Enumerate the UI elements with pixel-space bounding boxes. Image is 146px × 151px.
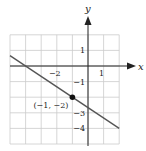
y-tick-label: −4 bbox=[73, 124, 85, 133]
point-marker bbox=[70, 94, 76, 100]
data-series: (−1, −2) bbox=[10, 56, 119, 129]
point-label: (−1, −2) bbox=[33, 101, 68, 110]
x-tick-label: 1 bbox=[99, 69, 104, 78]
x-axis-label: x bbox=[138, 61, 144, 72]
x-tick-label: −2 bbox=[49, 69, 61, 78]
y-axis-arrow-icon bbox=[85, 16, 92, 25]
y-tick-label: −1 bbox=[73, 78, 85, 87]
y-tick-label: −3 bbox=[73, 109, 85, 118]
x-axis-arrow-icon bbox=[127, 63, 136, 70]
coordinate-graph: x y −211−1−3−4 (−1, −2) bbox=[0, 0, 146, 151]
grid bbox=[10, 35, 119, 144]
y-tick-label: 1 bbox=[80, 46, 85, 55]
y-axis-label: y bbox=[84, 3, 91, 14]
graph-line bbox=[10, 56, 119, 129]
